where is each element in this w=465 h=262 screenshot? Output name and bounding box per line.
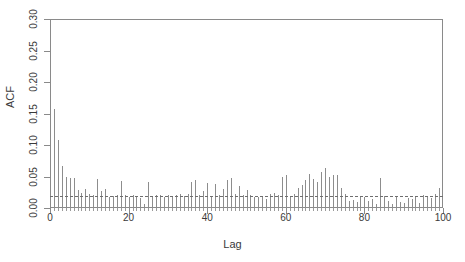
acf-bar bbox=[266, 199, 267, 208]
y-tick-label-text: 0.15 bbox=[28, 104, 39, 123]
x-tick-minor-mark bbox=[290, 208, 291, 211]
acf-bar bbox=[156, 195, 157, 208]
x-tick-minor-mark bbox=[349, 208, 350, 211]
acf-bar bbox=[329, 177, 330, 209]
acf-bar bbox=[254, 197, 255, 208]
x-tick-minor-mark bbox=[294, 208, 295, 211]
x-tick-minor-mark bbox=[396, 208, 397, 211]
acf-bar bbox=[427, 196, 428, 208]
acf-bar bbox=[54, 109, 55, 208]
x-tick-minor-mark bbox=[309, 208, 310, 211]
x-tick-label: 40 bbox=[187, 212, 227, 223]
x-tick-minor-mark bbox=[231, 208, 232, 211]
acf-bar bbox=[258, 197, 259, 208]
significance-threshold-line bbox=[50, 196, 443, 197]
x-tick-minor-mark bbox=[97, 208, 98, 211]
acf-bar bbox=[144, 204, 145, 208]
x-tick-minor-mark bbox=[93, 208, 94, 211]
x-tick-minor-mark bbox=[160, 208, 161, 211]
acf-bar bbox=[290, 196, 291, 208]
acf-bars-layer bbox=[50, 19, 443, 208]
acf-bar bbox=[152, 196, 153, 208]
acf-bar bbox=[250, 195, 251, 208]
x-tick-minor-mark bbox=[254, 208, 255, 211]
acf-bar bbox=[309, 174, 310, 208]
acf-bar bbox=[400, 202, 401, 208]
x-tick-minor-mark bbox=[341, 208, 342, 211]
y-tick-label: 0.25 bbox=[20, 45, 46, 57]
acf-bar bbox=[85, 189, 86, 208]
x-tick-minor-mark bbox=[329, 208, 330, 211]
x-tick-minor-mark bbox=[262, 208, 263, 211]
acf-bar bbox=[298, 188, 299, 208]
acf-bar bbox=[199, 195, 200, 208]
x-tick-minor-mark bbox=[58, 208, 59, 211]
x-tick-minor-mark bbox=[412, 208, 413, 211]
x-axis-title: Lag bbox=[0, 238, 465, 250]
y-tick-label-text: 0.05 bbox=[28, 167, 39, 186]
acf-bar bbox=[70, 178, 71, 208]
acf-bar bbox=[313, 179, 314, 208]
acf-bar bbox=[341, 188, 342, 208]
acf-bar bbox=[282, 177, 283, 209]
x-tick-label: 100 bbox=[423, 212, 463, 223]
x-tick-minor-mark bbox=[148, 208, 149, 211]
y-tick-label: 0.20 bbox=[20, 76, 46, 88]
x-tick-minor-mark bbox=[188, 208, 189, 211]
x-tick-minor-mark bbox=[144, 208, 145, 211]
acf-plot-figure: ACF Lag 0.000.050.100.150.200.250.30 020… bbox=[0, 0, 465, 262]
x-tick-minor-mark bbox=[317, 208, 318, 211]
acf-bar bbox=[423, 195, 424, 208]
x-tick-minor-mark bbox=[227, 208, 228, 211]
x-tick-minor-mark bbox=[419, 208, 420, 211]
acf-bar bbox=[431, 198, 432, 208]
x-tick-label: 60 bbox=[266, 212, 306, 223]
acf-bar bbox=[415, 196, 416, 208]
acf-bar bbox=[105, 189, 106, 208]
x-tick-minor-mark bbox=[298, 208, 299, 211]
x-tick-minor-mark bbox=[368, 208, 369, 211]
x-tick-minor-mark bbox=[404, 208, 405, 211]
x-tick-minor-mark bbox=[70, 208, 71, 211]
x-tick-minor-mark bbox=[372, 208, 373, 211]
acf-bar bbox=[211, 196, 212, 208]
acf-bar bbox=[219, 195, 220, 208]
x-tick-minor-mark bbox=[191, 208, 192, 211]
x-tick-minor-mark bbox=[278, 208, 279, 211]
x-tick-minor-mark bbox=[172, 208, 173, 211]
x-tick-minor-mark bbox=[333, 208, 334, 211]
acf-bar bbox=[368, 201, 369, 208]
x-tick-minor-mark bbox=[176, 208, 177, 211]
acf-bar bbox=[305, 180, 306, 208]
x-tick-minor-mark bbox=[325, 208, 326, 211]
y-axis-title: ACF bbox=[4, 88, 16, 108]
acf-bar bbox=[353, 200, 354, 208]
x-tick-label: 0 bbox=[30, 212, 70, 223]
x-tick-minor-mark bbox=[113, 208, 114, 211]
acf-bar bbox=[117, 195, 118, 208]
x-tick-minor-mark bbox=[152, 208, 153, 211]
acf-bar bbox=[247, 190, 248, 208]
y-tick-label: 0.30 bbox=[20, 13, 46, 25]
acf-bar bbox=[380, 178, 381, 208]
acf-bar bbox=[349, 201, 350, 208]
x-tick-minor-mark bbox=[74, 208, 75, 211]
acf-bar bbox=[164, 197, 165, 208]
acf-bar bbox=[133, 195, 134, 208]
acf-bar bbox=[121, 181, 122, 208]
x-tick-minor-mark bbox=[81, 208, 82, 211]
x-tick-minor-mark bbox=[239, 208, 240, 211]
x-tick-minor-mark bbox=[435, 208, 436, 211]
x-tick-label: 80 bbox=[344, 212, 384, 223]
acf-bar bbox=[140, 198, 141, 208]
acf-bar bbox=[439, 188, 440, 208]
acf-bar bbox=[125, 195, 126, 208]
acf-bar bbox=[392, 204, 393, 208]
acf-bar bbox=[325, 168, 326, 208]
x-tick-minor-mark bbox=[195, 208, 196, 211]
acf-bar bbox=[160, 195, 161, 208]
acf-bar bbox=[408, 198, 409, 208]
x-tick-minor-mark bbox=[235, 208, 236, 211]
x-tick-minor-mark bbox=[408, 208, 409, 211]
acf-bar bbox=[101, 191, 102, 208]
